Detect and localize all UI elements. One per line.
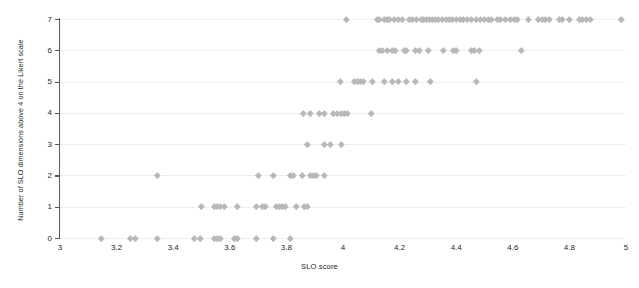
data-point xyxy=(293,203,299,209)
data-point xyxy=(327,141,333,147)
data-point xyxy=(321,172,327,178)
data-point xyxy=(427,78,433,84)
data-point xyxy=(559,16,565,22)
data-point xyxy=(270,172,276,178)
y-tick-label: 1 xyxy=(34,202,52,211)
x-tick-label: 4.4 xyxy=(436,243,476,252)
data-point xyxy=(304,141,310,147)
data-point xyxy=(518,47,524,53)
data-point xyxy=(262,203,268,209)
x-axis-label: SLO score xyxy=(0,262,639,271)
y-tick-label: 4 xyxy=(34,108,52,117)
data-point xyxy=(270,235,276,241)
data-point xyxy=(287,235,293,241)
data-point xyxy=(343,16,349,22)
plot-area xyxy=(60,19,626,238)
data-point xyxy=(253,235,259,241)
scatter-plot-figure: Number of SLO dimensions above 4 on the … xyxy=(0,0,639,288)
x-tick-label: 3 xyxy=(40,243,80,252)
data-point xyxy=(546,16,552,22)
data-point xyxy=(369,78,375,84)
data-point xyxy=(304,203,310,209)
data-point xyxy=(321,110,327,116)
x-tick-label: 5 xyxy=(606,243,639,252)
y-tick-label: 6 xyxy=(34,46,52,55)
gridline-y xyxy=(60,50,626,51)
data-point xyxy=(381,78,387,84)
data-point xyxy=(337,78,343,84)
y-tick-label: 5 xyxy=(34,77,52,86)
data-point xyxy=(344,110,350,116)
data-point xyxy=(221,203,227,209)
data-point xyxy=(338,141,344,147)
data-point xyxy=(416,47,422,53)
x-tick-label: 4.2 xyxy=(380,243,420,252)
data-point xyxy=(525,16,531,22)
gridline-y xyxy=(60,175,626,176)
gridline-y xyxy=(60,238,626,239)
data-point xyxy=(425,47,431,53)
data-point xyxy=(198,203,204,209)
x-tick-label: 3.6 xyxy=(210,243,250,252)
y-tick-label: 0 xyxy=(34,234,52,243)
data-point xyxy=(290,172,296,178)
y-tick-label: 7 xyxy=(34,15,52,24)
y-tick-label: 2 xyxy=(34,171,52,180)
data-point xyxy=(476,47,482,53)
data-point xyxy=(234,203,240,209)
gridline-y xyxy=(60,207,626,208)
data-point xyxy=(154,235,160,241)
data-point xyxy=(412,78,418,84)
x-tick-label: 4 xyxy=(323,243,363,252)
x-tick-label: 4.8 xyxy=(549,243,589,252)
data-point xyxy=(299,172,305,178)
y-axis-label: Number of SLO dimensions above 4 on the … xyxy=(14,10,28,250)
data-point xyxy=(403,47,409,53)
data-point xyxy=(154,172,160,178)
data-point xyxy=(566,16,572,22)
data-point xyxy=(440,47,446,53)
data-point xyxy=(98,235,104,241)
y-tick-label: 3 xyxy=(34,140,52,149)
data-point xyxy=(587,16,593,22)
data-point xyxy=(368,110,374,116)
data-point xyxy=(255,172,261,178)
data-point xyxy=(399,16,405,22)
data-point xyxy=(473,78,479,84)
x-tick-label: 3.8 xyxy=(266,243,306,252)
data-point xyxy=(403,78,409,84)
data-point xyxy=(395,78,401,84)
x-tick-label: 3.2 xyxy=(97,243,137,252)
data-point xyxy=(197,235,203,241)
x-tick-label: 4.6 xyxy=(493,243,533,252)
data-point xyxy=(132,235,138,241)
x-tick-label: 3.4 xyxy=(153,243,193,252)
gridline-y xyxy=(60,82,626,83)
data-point xyxy=(307,110,313,116)
data-point xyxy=(619,16,625,22)
